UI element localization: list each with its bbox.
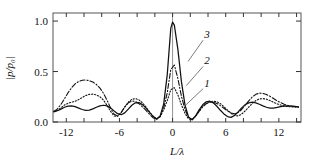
y-tick-label: 1.0 bbox=[34, 15, 48, 27]
y-axis-title: |p/p₀| bbox=[3, 56, 15, 80]
figure-container: -12-60612 0.00.51.0 321 L/λ |p/p₀| bbox=[0, 0, 315, 161]
y-tick-label: 0.5 bbox=[34, 66, 48, 78]
x-tick-label: 12 bbox=[273, 126, 284, 138]
x-axis-tick-labels: -12-60612 bbox=[59, 126, 284, 138]
curve-2 bbox=[54, 65, 298, 120]
curve-label-3: 3 bbox=[203, 28, 210, 40]
y-axis-tick-labels: 0.00.51.0 bbox=[34, 15, 48, 128]
chart-canvas: -12-60612 0.00.51.0 321 L/λ |p/p₀| bbox=[0, 0, 315, 161]
curve-label-1: 1 bbox=[204, 77, 210, 89]
x-tick-label: -6 bbox=[115, 126, 125, 138]
x-tick-label: 0 bbox=[170, 126, 176, 138]
x-axis-title: L/λ bbox=[169, 145, 184, 157]
curve-1 bbox=[54, 88, 298, 120]
x-tick-label: -12 bbox=[59, 126, 74, 138]
data-curves bbox=[54, 22, 298, 120]
annotation-leader-lines bbox=[185, 40, 203, 105]
curve-label-2: 2 bbox=[204, 54, 210, 66]
x-tick-label: 6 bbox=[223, 126, 229, 138]
curve-annotations: 321 bbox=[203, 28, 210, 88]
y-tick-label: 0.0 bbox=[34, 116, 48, 128]
